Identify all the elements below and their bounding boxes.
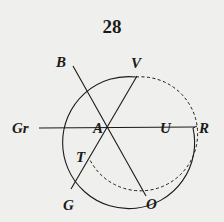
label-o: O (146, 196, 157, 212)
outer-solid-arc (63, 77, 195, 209)
line-gr-r (39, 127, 195, 128)
label-b: B (55, 54, 66, 70)
label-u: U (160, 120, 172, 136)
label-g: G (63, 197, 74, 213)
inner-dashed-arc (90, 77, 198, 191)
color-circle-diagram: B V Gr A U R T G O (0, 0, 224, 222)
label-gr: Gr (12, 120, 29, 136)
line-v-g (71, 76, 137, 189)
label-t: T (76, 149, 86, 165)
line-b-o (73, 66, 146, 196)
label-v: V (131, 55, 143, 71)
label-r: R (198, 120, 209, 136)
label-a: A (92, 120, 103, 136)
